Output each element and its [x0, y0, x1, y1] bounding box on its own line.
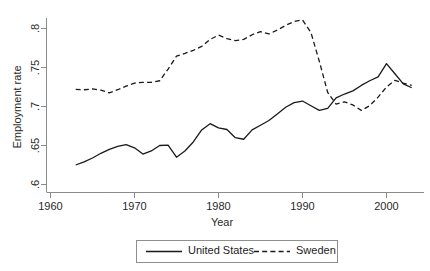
x-tick-label: 1960 — [38, 200, 62, 212]
y-tick-label: .7 — [29, 102, 41, 111]
y-tick-label: .65 — [29, 138, 41, 153]
x-axis-tick-labels: 1960 1970 1980 1990 2000 — [38, 200, 398, 212]
y-tick-label: .8 — [29, 24, 41, 33]
x-tick-label: 1970 — [122, 200, 146, 212]
x-axis-title: Year — [211, 216, 234, 228]
employment-rate-line-chart: .8 .75 .7 .65 .6 Employment rate 1960 19… — [0, 0, 430, 271]
legend-label-sweden: Sweden — [296, 244, 336, 256]
y-axis-title: Employment rate — [11, 65, 23, 148]
x-tick-label: 1980 — [206, 200, 230, 212]
x-tick-label: 2000 — [374, 200, 398, 212]
legend-label-united-states: United States — [188, 244, 255, 256]
x-axis-ticks — [51, 193, 387, 199]
y-tick-label: .6 — [29, 180, 41, 189]
series-line-united-states — [76, 64, 412, 165]
y-axis-ticks — [41, 29, 47, 185]
y-tick-label: .75 — [29, 60, 41, 75]
chart-legend: United States Sweden — [137, 241, 338, 263]
x-tick-label: 1990 — [290, 200, 314, 212]
chart-figure: .8 .75 .7 .65 .6 Employment rate 1960 19… — [0, 0, 430, 271]
series-line-sweden — [76, 20, 412, 110]
y-axis-tick-labels: .8 .75 .7 .65 .6 — [29, 24, 41, 189]
